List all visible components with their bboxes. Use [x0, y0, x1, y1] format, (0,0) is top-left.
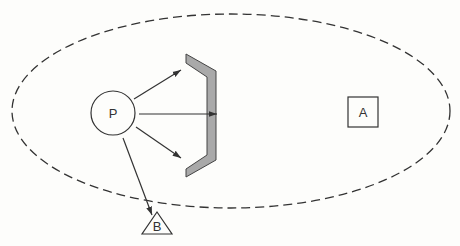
arrow-p-to-b — [123, 138, 152, 215]
node-b: B — [142, 212, 172, 234]
node-a-label: A — [359, 105, 368, 120]
barrier-shape — [186, 54, 216, 177]
node-b-label: B — [153, 219, 162, 234]
node-a: A — [348, 97, 378, 127]
arrow-p-to-barrier-upper — [134, 70, 181, 99]
node-p: P — [91, 91, 135, 135]
diagram-canvas: P A B — [0, 0, 460, 246]
node-p-label: P — [109, 106, 118, 121]
arrow-p-to-barrier-lower — [136, 127, 181, 158]
boundary-ellipse — [12, 14, 450, 208]
